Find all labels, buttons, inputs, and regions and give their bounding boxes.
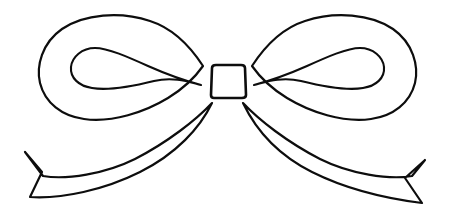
center-knot bbox=[211, 65, 246, 98]
bow-illustration bbox=[0, 0, 450, 220]
artboard bbox=[0, 0, 450, 220]
